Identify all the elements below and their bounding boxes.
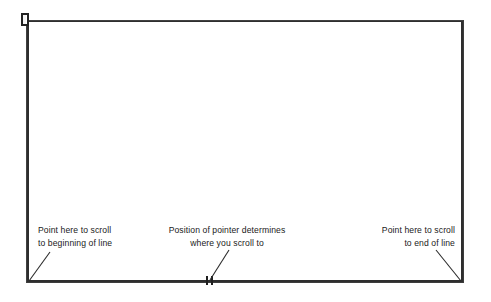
callout-scroll-to-beginning: Point here to scroll to beginning of lin… (38, 224, 112, 249)
pointer-position-tick[interactable] (206, 276, 214, 285)
callout-pointer-position: Position of pointer determines where you… (157, 224, 297, 249)
callout-pointer-position-line2: where you scroll to (157, 237, 297, 250)
pointer-tick-left (206, 276, 208, 285)
callout-scroll-to-beginning-line2: to beginning of line (38, 237, 112, 250)
callout-scroll-to-end: Point here to scroll to end of line (355, 224, 455, 249)
scrollbar-illustration-figure: Point here to scroll to beginning of lin… (0, 0, 491, 302)
pointer-tick-right (211, 276, 213, 285)
callout-scroll-to-beginning-line1: Point here to scroll (38, 224, 112, 237)
callout-scroll-to-end-line1: Point here to scroll (355, 224, 455, 237)
scroll-thumb-inner (23, 15, 26, 24)
callout-pointer-position-line1: Position of pointer determines (157, 224, 297, 237)
callout-scroll-to-end-line2: to end of line (355, 237, 455, 250)
